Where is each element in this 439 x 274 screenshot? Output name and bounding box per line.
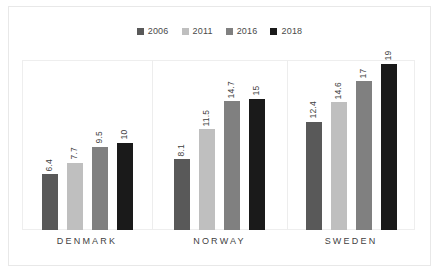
bar-wrap-sweden-2016: 17 [356,60,372,230]
bar-value-label: 8.1 [177,144,186,156]
bar-value-label: 14.6 [333,82,342,99]
legend-item-2011[interactable]: 2011 [182,27,213,36]
bar-sweden-2006[interactable] [306,122,322,231]
bar-wrap-denmark-2016: 9.5 [92,60,108,230]
bar-wrap-denmark-2011: 7.7 [67,60,83,230]
bar-value-label: 15 [252,86,261,96]
bar-norway-2011[interactable] [199,129,215,230]
bar-denmark-2011[interactable] [67,163,83,230]
legend-swatch-2011 [182,28,189,35]
bar-sweden-2018[interactable] [381,64,397,230]
legend-label-2011: 2011 [193,27,213,36]
legend-item-2006[interactable]: 2006 [137,27,169,36]
bar-group-bars: 12.414.61719 [287,60,415,230]
category-label-denmark: DENMARK [22,236,152,246]
bar-wrap-denmark-2018: 10 [117,60,133,230]
legend-label-2006: 2006 [148,27,169,36]
legend-swatch-2006 [137,28,144,35]
bar-wrap-norway-2006: 8.1 [174,60,190,230]
bar-norway-2018[interactable] [249,99,265,230]
bar-group-norway: 8.111.514.715 [152,60,287,230]
bar-wrap-norway-2018: 15 [249,60,265,230]
bar-value-label: 9.5 [94,131,103,143]
bar-wrap-norway-2016: 14.7 [224,60,240,230]
bar-value-label: 10 [119,130,128,140]
chart-legend: 2006 2011 2016 2018 [0,27,439,36]
chart-page: 2006 2011 2016 2018 6.47.79.5108.111.514… [0,0,439,274]
bar-norway-2016[interactable] [224,101,240,230]
bar-wrap-denmark-2006: 6.4 [42,60,58,230]
bar-value-label: 7.7 [69,147,78,159]
bar-value-label: 12.4 [308,101,317,118]
bar-wrap-sweden-2018: 19 [381,60,397,230]
bar-norway-2006[interactable] [174,159,190,230]
plot-area: 6.47.79.5108.111.514.71512.414.61719 [22,60,415,230]
bar-group-bars: 8.111.514.715 [152,60,287,230]
category-label-norway: NORWAY [152,236,287,246]
legend-item-2018[interactable]: 2018 [270,27,302,36]
bar-value-label: 14.7 [227,81,236,98]
bar-value-label: 19 [383,51,392,61]
legend-label-2016: 2016 [237,27,258,36]
bar-wrap-norway-2011: 11.5 [199,60,215,230]
bar-denmark-2006[interactable] [42,174,58,230]
bar-sweden-2011[interactable] [331,102,347,230]
bar-value-label: 11.5 [202,110,211,127]
bar-value-label: 6.4 [44,159,53,171]
bar-group-bars: 6.47.79.510 [22,60,152,230]
legend-label-2018: 2018 [281,27,302,36]
bar-sweden-2016[interactable] [356,81,372,230]
bar-denmark-2018[interactable] [117,143,133,231]
bar-denmark-2016[interactable] [92,147,108,230]
bar-wrap-sweden-2006: 12.4 [306,60,322,230]
category-label-sweden: SWEDEN [287,236,415,246]
legend-swatch-2016 [226,28,233,35]
legend-swatch-2018 [270,28,277,35]
bar-group-denmark: 6.47.79.510 [22,60,152,230]
bar-wrap-sweden-2011: 14.6 [331,60,347,230]
bar-value-label: 17 [358,68,367,78]
bar-group-sweden: 12.414.61719 [287,60,415,230]
legend-item-2016[interactable]: 2016 [226,27,258,36]
category-axis: DENMARK NORWAY SWEDEN [22,236,415,256]
